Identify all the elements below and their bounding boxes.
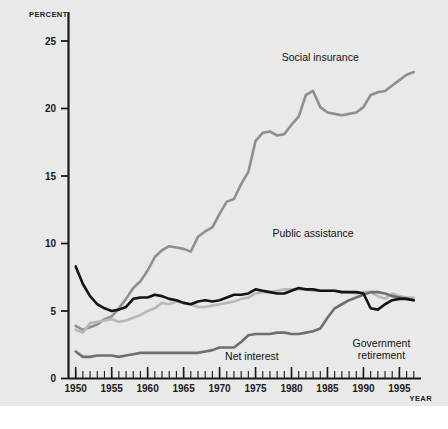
series-lines-group bbox=[76, 72, 414, 357]
series-annotation: Government bbox=[353, 337, 411, 349]
series-annotation: Public assistance bbox=[273, 227, 354, 239]
x-axis-ticks: 1950195519601965197019751980198519901995 bbox=[65, 367, 411, 394]
y-axis-ticks: 0510152025 bbox=[45, 36, 69, 385]
x-tick-label: 1970 bbox=[208, 383, 231, 394]
x-tick-label: 1995 bbox=[388, 383, 411, 394]
series-annotations-group: Social insurancePublic assistanceNet int… bbox=[225, 51, 410, 361]
x-tick-label: 1950 bbox=[65, 383, 88, 394]
y-tick-label: 15 bbox=[45, 171, 57, 182]
y-tick-label: 25 bbox=[45, 36, 57, 47]
x-tick-label: 1955 bbox=[101, 383, 124, 394]
figure-footer-band bbox=[0, 406, 448, 429]
series-annotation: Social insurance bbox=[282, 51, 359, 63]
x-tick-label: 1990 bbox=[352, 383, 375, 394]
x-tick-label: 1985 bbox=[316, 383, 339, 394]
y-tick-label: 0 bbox=[50, 373, 56, 384]
x-tick-label: 1980 bbox=[280, 383, 303, 394]
series-line bbox=[76, 266, 414, 311]
x-axis-title: YEAR bbox=[410, 394, 433, 403]
series-annotation: retirement bbox=[358, 349, 405, 361]
x-axis-minor-ticks bbox=[76, 371, 414, 379]
line-chart: PERCENT YEAR 0510152025 1950195519601965… bbox=[0, 0, 448, 429]
series-annotation: Net interest bbox=[225, 350, 279, 362]
y-tick-label: 20 bbox=[45, 103, 57, 114]
x-tick-label: 1975 bbox=[244, 383, 267, 394]
chart-figure: PERCENT YEAR 0510152025 1950195519601965… bbox=[0, 0, 448, 429]
y-tick-label: 10 bbox=[45, 238, 57, 249]
x-tick-label: 1960 bbox=[137, 383, 160, 394]
x-tick-label: 1965 bbox=[172, 383, 195, 394]
y-tick-label: 5 bbox=[50, 306, 56, 317]
y-axis-title: PERCENT bbox=[29, 10, 68, 19]
